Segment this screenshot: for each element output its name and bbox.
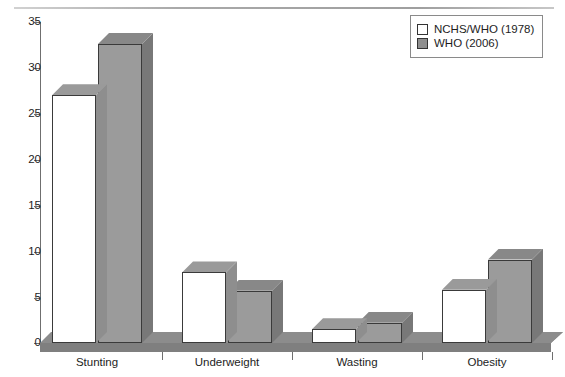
bar-side-face <box>142 33 153 343</box>
bar-front-face <box>182 272 226 343</box>
legend-label: NCHS/WHO (1978) <box>434 23 534 35</box>
y-tick-label: 25 <box>15 108 41 119</box>
legend-item-who-2006[interactable]: WHO (2006) <box>417 37 534 49</box>
bar-front-face <box>442 290 486 343</box>
y-tick-label: 0 <box>15 337 41 348</box>
x-axis-label-wasting: Wasting <box>296 356 418 368</box>
x-axis-label-obesity: Obesity <box>426 356 548 368</box>
x-axis-tick <box>292 352 293 360</box>
floor-front-face <box>40 343 551 352</box>
y-tick-label: 20 <box>15 154 41 165</box>
page-rule-line <box>14 7 554 9</box>
bar-side-face <box>96 84 107 343</box>
x-axis-tick <box>552 352 553 360</box>
y-tick-label: 35 <box>15 16 41 27</box>
bar-side-face <box>532 249 543 343</box>
floor-right-face <box>551 332 563 343</box>
bar-front-face <box>52 95 96 343</box>
bar-chart: 35 30 25 20 15 10 5 0 <box>0 0 565 377</box>
x-axis-label-stunting: Stunting <box>36 356 158 368</box>
bar-obesity-series-1 <box>442 279 486 343</box>
y-tick-label: 15 <box>15 200 41 211</box>
legend-label: WHO (2006) <box>434 37 499 49</box>
bar-side-face <box>272 280 283 343</box>
bar-side-face <box>226 261 237 343</box>
y-tick-label: 5 <box>15 292 41 303</box>
x-axis-label-underweight: Underweight <box>166 356 288 368</box>
bar-stunting-series-1 <box>52 84 96 343</box>
legend: NCHS/WHO (1978) WHO (2006) <box>410 15 543 58</box>
bar-underweight-series-1 <box>182 261 226 343</box>
y-tick-label: 30 <box>15 62 41 73</box>
x-axis-tick <box>422 352 423 360</box>
x-axis-tick <box>162 352 163 360</box>
legend-swatch-icon <box>417 38 428 49</box>
bar-side-face <box>486 279 497 343</box>
legend-item-nchs-who-1978[interactable]: NCHS/WHO (1978) <box>417 23 534 35</box>
y-tick-label: 10 <box>15 246 41 257</box>
bar-wasting-series-1 <box>312 318 356 343</box>
legend-swatch-icon <box>417 24 428 35</box>
bar-front-face <box>312 329 356 343</box>
